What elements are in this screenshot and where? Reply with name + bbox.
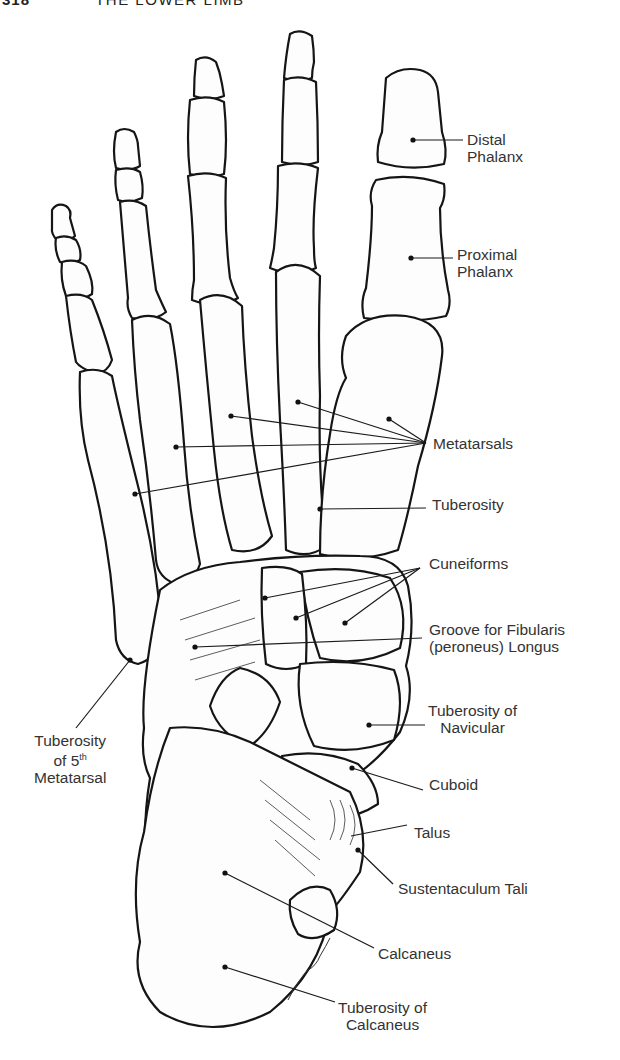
label-tuberosity: Tuberosity <box>432 496 504 513</box>
great-toe <box>320 69 450 558</box>
label-groove-fibularis-longus: Groove for Fibularis (peroneus) Longus <box>429 621 565 655</box>
label-cuneiforms: Cuneiforms <box>429 555 508 572</box>
label-sustentaculum-tali: Sustentaculum Tali <box>398 880 528 897</box>
label-cuboid: Cuboid <box>429 776 478 793</box>
label-metatarsals: Metatarsals <box>433 435 513 452</box>
label-proximal-phalanx: Proximal Phalanx <box>457 246 517 280</box>
label-tuberosity-of-5th-metatarsal: Tuberosity of 5th Metatarsal <box>34 732 106 786</box>
label-distal-phalanx: Distal Phalanx <box>467 131 523 165</box>
label-calcaneus: Calcaneus <box>378 945 451 962</box>
label-talus: Talus <box>414 824 450 841</box>
label-tuberosity-of-calcaneus: Tuberosity of Calcaneus <box>338 999 427 1033</box>
label-tuberosity-of-navicular: Tuberosity of Navicular <box>428 702 517 736</box>
second-toe <box>270 31 326 554</box>
foot-skeleton-illustration <box>0 0 620 1060</box>
